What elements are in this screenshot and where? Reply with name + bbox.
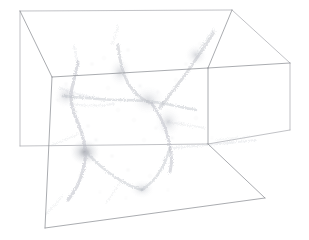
filament-vertical-left xyxy=(68,62,85,200)
visualization-viewport xyxy=(0,0,309,240)
edge-back-top xyxy=(20,10,232,11)
cosmic-web-structure xyxy=(46,26,256,214)
edge-back-bottom-left xyxy=(20,144,208,146)
filament-mid-left-branch xyxy=(70,104,114,106)
bbox-back-edges xyxy=(20,10,290,146)
edge-top-right-far-diagonal xyxy=(208,63,290,68)
edge-front-bottom-right xyxy=(208,144,265,198)
edge-back-top-right xyxy=(232,10,290,63)
filament-upper-left-wisp xyxy=(74,46,78,64)
edge-front-bottom-left xyxy=(45,198,265,228)
edge-front-left-vertical xyxy=(45,77,52,228)
filament-bottom-left-tail xyxy=(46,196,62,214)
edge-top-right-diagonal xyxy=(208,10,232,68)
bbox-front-edges xyxy=(20,10,290,228)
particle-speckle xyxy=(57,43,244,198)
edge-back-bottom-right xyxy=(208,130,290,144)
filament-lower-center-tail xyxy=(106,182,120,203)
simulation-box-scene xyxy=(0,0,309,240)
filament-horizontal-spine xyxy=(62,96,196,110)
edge-top-left-diagonal xyxy=(20,11,52,77)
filament-top-mid-wisp xyxy=(112,26,118,44)
